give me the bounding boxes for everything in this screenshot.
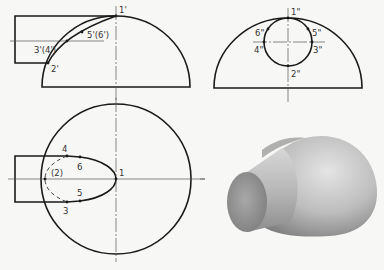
label-3p4p: 3'(4') xyxy=(34,45,56,55)
label-2p: 2' xyxy=(51,64,59,74)
side-view: 1" 6" 5" 4" 3" 2" xyxy=(214,7,362,103)
point-6pp xyxy=(267,28,270,31)
shaded-3d-view xyxy=(200,136,377,237)
label-3pp: 3" xyxy=(313,45,322,55)
point-1pp xyxy=(287,17,290,20)
front-view: 1' 5'(6') 3'(4') 2' xyxy=(10,5,190,100)
label-6: 6 xyxy=(77,162,82,172)
label-4pp: 4" xyxy=(254,45,263,55)
label-1p: 1' xyxy=(119,5,127,15)
point-3 xyxy=(66,201,69,204)
label-5: 5 xyxy=(77,188,82,198)
projection-drawing: 1' 5'(6') 3'(4') 2' 1" 6" 5" 4" 3" 2" xyxy=(0,0,384,270)
label-3: 3 xyxy=(63,206,68,216)
label-2pp: 2" xyxy=(291,69,300,79)
point-4 xyxy=(66,155,69,158)
label-4: 4 xyxy=(62,144,67,154)
cylinder-end-cap xyxy=(227,172,267,232)
point-2p xyxy=(47,62,50,65)
top-view: 4 6 (2) 1 5 3 xyxy=(8,98,205,262)
point-2 xyxy=(44,178,47,181)
point-2pp xyxy=(287,65,290,68)
label-5pp: 5" xyxy=(312,28,321,38)
point-1p xyxy=(115,15,118,18)
label-6pp: 6" xyxy=(255,28,264,38)
point-3pp xyxy=(311,41,314,44)
point-5p xyxy=(81,31,84,34)
label-5p6p: 5'(6') xyxy=(87,30,109,40)
point-3p xyxy=(66,40,69,43)
point-1 xyxy=(115,178,118,181)
label-1: 1 xyxy=(119,168,124,178)
point-4pp xyxy=(263,41,266,44)
label-1pp: 1" xyxy=(291,7,300,17)
point-5 xyxy=(79,200,82,203)
label-2: (2) xyxy=(51,168,63,178)
point-5pp xyxy=(307,28,310,31)
point-6 xyxy=(79,156,82,159)
